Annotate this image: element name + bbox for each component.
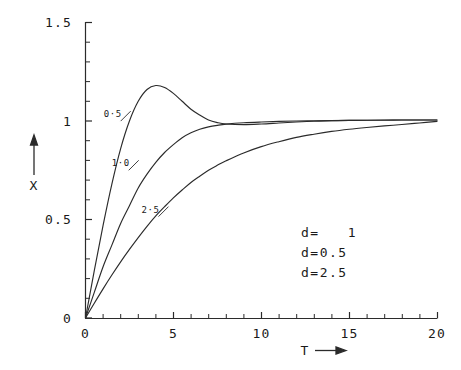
y-axis-title-group: X <box>29 135 38 193</box>
legend: d= 1 d=0.5 d=2.5 <box>301 225 357 280</box>
curve-d-2_5 <box>86 121 438 318</box>
x-axis-title-group: T <box>300 343 346 358</box>
y-axis-minor-ticks <box>86 42 91 298</box>
y-axis-arrow-head <box>31 135 38 145</box>
curve-label-1_0: 1·0 <box>112 158 130 168</box>
x-axis-arrow-head <box>336 347 346 354</box>
x-tick-label-10: 10 <box>252 326 270 341</box>
x-tick-label-0: 0 <box>81 326 90 341</box>
legend-item-0: d= 1 <box>301 225 357 240</box>
y-tick-label-1_5: 1.5 <box>45 15 72 30</box>
y-tick-label-0: 0 <box>63 311 72 326</box>
leader-0_5 <box>121 111 131 121</box>
y-axis-major-ticks <box>86 23 93 319</box>
y-tick-label-1: 1 <box>63 114 72 129</box>
y-axis-label: X <box>29 178 38 193</box>
x-axis-label: T <box>300 343 309 358</box>
y-tick-label-0_5: 0.5 <box>45 212 72 227</box>
chart-figure: 1.5 1 0.5 0 0 5 10 15 20 X T <box>0 0 461 370</box>
curve-d-1_0 <box>86 120 438 318</box>
x-tick-label-20: 20 <box>428 326 446 341</box>
curve-label-2_5: 2·5 <box>141 205 159 215</box>
legend-item-2: d=2.5 <box>301 265 348 280</box>
leader-1_0 <box>129 160 139 170</box>
x-tick-label-5: 5 <box>169 326 178 341</box>
legend-item-1: d=0.5 <box>301 245 348 260</box>
chart-canvas: 1.5 1 0.5 0 0 5 10 15 20 X T <box>0 0 461 370</box>
x-tick-label-15: 15 <box>340 326 358 341</box>
curve-label-0_5: 0·5 <box>104 109 122 119</box>
